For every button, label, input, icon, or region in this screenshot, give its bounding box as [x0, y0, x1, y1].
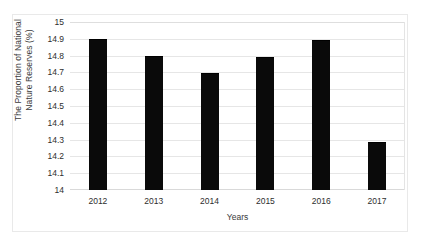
bar — [89, 39, 107, 190]
bar — [312, 40, 330, 190]
gridline — [70, 72, 404, 73]
gridline — [70, 189, 404, 190]
x-axis-tick-label: 2012 — [78, 196, 118, 206]
bar — [368, 142, 386, 190]
x-axis-tick-label: 2013 — [134, 196, 174, 206]
gridline — [70, 22, 404, 23]
y-axis-tick-label: 14 — [18, 186, 64, 195]
y-axis-tick-label: 14.4 — [18, 118, 64, 127]
gridline — [70, 173, 404, 174]
y-axis-tick-label: 14.6 — [18, 85, 64, 94]
y-axis-tick-label: 14.2 — [18, 152, 64, 161]
y-axis-tick-label: 14.9 — [18, 34, 64, 43]
gridline — [70, 89, 404, 90]
x-axis-tick-label: 2015 — [245, 196, 285, 206]
bar — [201, 73, 219, 190]
gridline — [70, 140, 404, 141]
bar — [256, 57, 274, 190]
y-axis-tick-label: 14.1 — [18, 169, 64, 178]
bar-chart-figure: The Proportion of National Nature Reserv… — [0, 0, 421, 245]
y-axis-tick-label: 14.5 — [18, 102, 64, 111]
gridline — [70, 123, 404, 124]
plot-area — [70, 22, 405, 190]
gridline — [70, 39, 404, 40]
gridline — [70, 106, 404, 107]
y-axis-tick-label: 15 — [18, 18, 64, 27]
y-axis-tick-label: 14.8 — [18, 51, 64, 60]
x-axis-tick-label: 2017 — [357, 196, 397, 206]
y-axis-tick-label: 14.7 — [18, 68, 64, 77]
gridline — [70, 156, 404, 157]
bar — [145, 56, 163, 190]
y-axis-tick-label: 14.3 — [18, 135, 64, 144]
x-axis-title: Years — [70, 212, 405, 222]
gridline — [70, 56, 404, 57]
x-axis-tick-label: 2014 — [190, 196, 230, 206]
x-axis-tick-label: 2016 — [301, 196, 341, 206]
